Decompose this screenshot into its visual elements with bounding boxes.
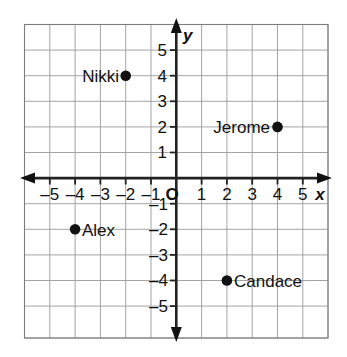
x-tick-label-minus-2: –2 bbox=[116, 185, 135, 204]
x-tick-label-3: 3 bbox=[247, 185, 256, 204]
x-axis-right-arrowhead bbox=[317, 173, 332, 184]
point-label-alex: Alex bbox=[82, 221, 116, 240]
y-tick-label-minus-4: –4 bbox=[149, 271, 168, 290]
y-tick-label-1: 1 bbox=[158, 143, 167, 162]
point-label-jerome: Jerome bbox=[213, 118, 270, 137]
point-nikki-group: Nikki bbox=[82, 67, 131, 86]
origin-label: O bbox=[165, 185, 178, 204]
point-marker-alex bbox=[70, 224, 81, 235]
y-tick-label-minus-2: –2 bbox=[149, 220, 168, 239]
coordinate-plane-svg: 5 4 3 2 1 –1 –2 –3 –4 –5 –5 –4 –3 –2 –1 … bbox=[0, 0, 347, 357]
point-label-nikki: Nikki bbox=[82, 67, 119, 86]
y-tick-label-3: 3 bbox=[158, 92, 167, 111]
x-tick-label-minus-5: –5 bbox=[40, 185, 59, 204]
point-alex-group: Alex bbox=[70, 221, 116, 240]
point-label-candace: Candace bbox=[234, 272, 302, 291]
y-tick-label-minus-3: –3 bbox=[149, 246, 168, 265]
y-tick-label-5: 5 bbox=[158, 41, 167, 60]
point-marker-nikki bbox=[120, 70, 131, 81]
y-tick-label-2: 2 bbox=[158, 118, 167, 137]
y-tick-label-4: 4 bbox=[158, 67, 167, 86]
coordinate-plane-figure: 5 4 3 2 1 –1 –2 –3 –4 –5 –5 –4 –3 –2 –1 … bbox=[0, 0, 347, 357]
x-tick-label-minus-4: –4 bbox=[66, 185, 85, 204]
x-tick-label-minus-1: –1 bbox=[142, 185, 161, 204]
x-tick-label-2: 2 bbox=[222, 185, 231, 204]
point-jerome-group: Jerome bbox=[213, 118, 282, 137]
x-tick-label-1: 1 bbox=[197, 185, 206, 204]
y-axis-label: y bbox=[182, 26, 194, 45]
x-tick-label-minus-3: –3 bbox=[91, 185, 110, 204]
x-axis-left-arrowhead bbox=[20, 173, 35, 184]
x-tick-label-4: 4 bbox=[273, 185, 282, 204]
x-axis-label: x bbox=[314, 185, 326, 204]
x-tick-label-5: 5 bbox=[298, 185, 307, 204]
y-axis-top-arrowhead bbox=[171, 18, 182, 33]
point-marker-jerome bbox=[272, 122, 283, 133]
point-marker-candace bbox=[222, 275, 233, 286]
point-candace-group: Candace bbox=[222, 272, 302, 291]
y-tick-label-minus-5: –5 bbox=[149, 297, 168, 316]
y-axis bbox=[171, 18, 182, 342]
y-axis-bottom-arrowhead bbox=[171, 327, 182, 342]
